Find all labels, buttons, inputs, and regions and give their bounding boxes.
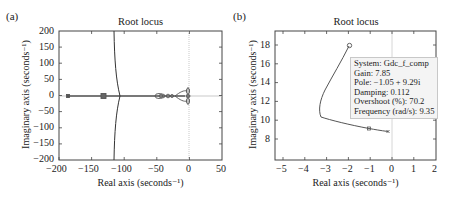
panel-b-ytick: 16 [260, 58, 270, 69]
panel-b-xtick: −5 [276, 163, 287, 174]
panel-b-x-axis-label: Real axis (seconds⁻¹) [275, 177, 436, 188]
panel-a-ytick: −100 [33, 121, 54, 132]
panel-b: (b) Root locus Imaginary axis (seconds⁻¹… [225, 0, 451, 198]
panel-b-ytick: 18 [260, 39, 270, 50]
panel-a-ytick: −50 [38, 105, 54, 116]
panel-a-ytick: 0 [49, 89, 54, 100]
panel-b-xtick: 2 [432, 163, 437, 174]
datatip: System: Gdc_f_comp Gain: 7.85 Pole: −1.0… [350, 57, 438, 119]
panel-a-xtick: −50 [148, 163, 164, 174]
panel-b-xtick: −3 [320, 163, 331, 174]
panel-b-ytick: 8 [265, 133, 270, 144]
panel-b-ytick: 14 [260, 76, 270, 87]
panel-b-ytick: 10 [260, 114, 270, 125]
panel-a-xtick: −150 [78, 163, 99, 174]
panel-a-x-axis-label: Real axis (seconds⁻¹) [59, 177, 222, 188]
panel-a-ytick: 200 [39, 25, 54, 36]
panel-a-xtick: −100 [111, 163, 132, 174]
panel-a-xtick: −200 [46, 163, 67, 174]
panel-a-ytick: 150 [39, 41, 54, 52]
panel-b-ytick: 12 [260, 95, 270, 106]
panel-b-xtick: 1 [411, 163, 416, 174]
panel-a-ytick: 100 [39, 57, 54, 68]
panel-b-xtick: −1 [364, 163, 375, 174]
panel-b-xtick: −2 [342, 163, 353, 174]
panel-a-xtick: 0 [186, 163, 191, 174]
panel-a: (a) Root locus Imaginary axis (seconds⁻¹… [0, 0, 225, 198]
panel-b-xtick: −4 [298, 163, 309, 174]
datatip-frequency: Frequency (rad/s): 9.35 [354, 107, 434, 117]
panel-a-ytick: −150 [33, 137, 54, 148]
panel-a-ytick: 50 [44, 73, 54, 84]
panel-b-xtick: 0 [389, 163, 394, 174]
